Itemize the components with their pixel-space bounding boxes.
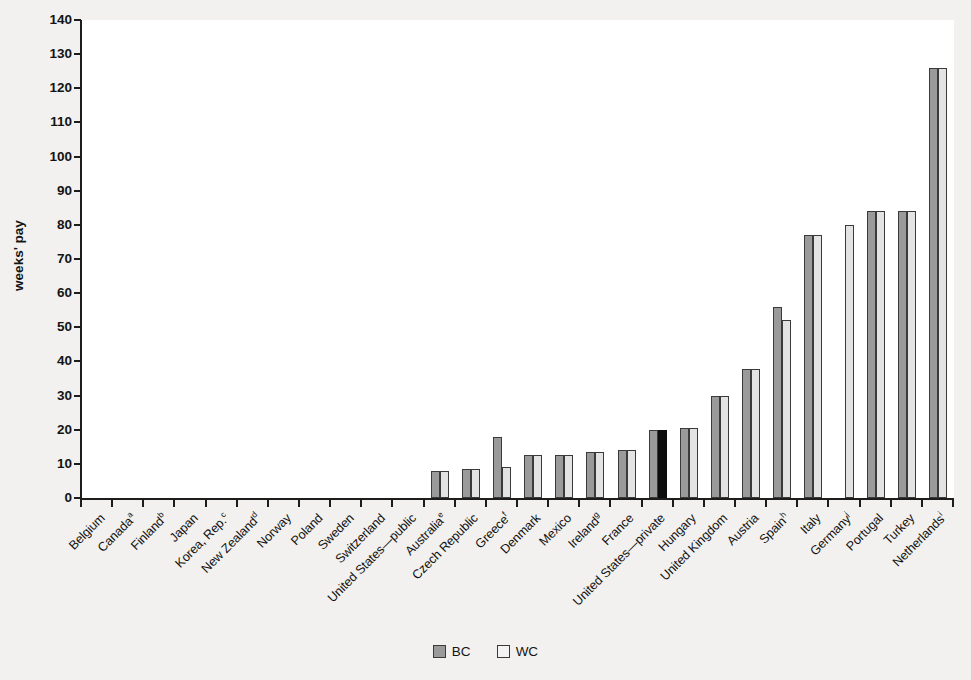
x-axis-tick-mark bbox=[516, 500, 518, 507]
bar-group bbox=[244, 20, 262, 498]
bar-group bbox=[555, 20, 573, 498]
bar-group bbox=[586, 20, 604, 498]
bar-group bbox=[368, 20, 386, 498]
y-axis-tick-label: 0 bbox=[64, 491, 72, 505]
legend-item: WC bbox=[497, 644, 539, 659]
bar-bc bbox=[742, 369, 751, 498]
x-axis-tick-mark bbox=[111, 500, 113, 507]
y-axis-tick-label: 60 bbox=[57, 286, 72, 300]
bar-bc bbox=[773, 307, 782, 498]
y-axis-tick-label: 50 bbox=[57, 320, 72, 334]
y-axis-tick-label: 80 bbox=[57, 218, 72, 232]
bar-group bbox=[929, 20, 947, 498]
bar-wc bbox=[876, 211, 885, 498]
bar-group bbox=[493, 20, 511, 498]
bar-wc bbox=[813, 235, 822, 498]
x-axis-tick-mark bbox=[80, 500, 82, 507]
x-axis-tick-mark bbox=[173, 500, 175, 507]
y-axis-tick-label: 30 bbox=[57, 389, 72, 403]
bar-bc bbox=[898, 211, 907, 498]
y-axis-tick-mark bbox=[74, 395, 81, 397]
bar-group bbox=[649, 20, 667, 498]
figure: 0102030405060708090100110120130140 weeks… bbox=[0, 0, 971, 680]
x-axis-tick-mark bbox=[765, 500, 767, 507]
legend-label: WC bbox=[516, 644, 539, 659]
bar-wc bbox=[533, 455, 542, 498]
y-axis-tick-label: 130 bbox=[49, 47, 72, 61]
y-axis-tick-mark bbox=[74, 19, 81, 21]
x-axis-tick-mark bbox=[578, 500, 580, 507]
bar-group bbox=[804, 20, 822, 498]
x-axis-tick-mark bbox=[454, 500, 456, 507]
bar-group bbox=[119, 20, 137, 498]
y-axis-tick-mark bbox=[74, 53, 81, 55]
y-axis-tick-mark bbox=[74, 190, 81, 192]
bar-group bbox=[213, 20, 231, 498]
bar-bc bbox=[524, 455, 533, 498]
y-axis-tick-label: 20 bbox=[57, 423, 72, 437]
y-axis-tick-mark bbox=[74, 497, 81, 499]
x-axis-tick-mark bbox=[703, 500, 705, 507]
footnote-marker: g bbox=[591, 509, 601, 519]
bar-wc-highlighted bbox=[658, 430, 667, 498]
chart-legend: BCWC bbox=[0, 644, 971, 659]
bar-group bbox=[711, 20, 729, 498]
bar-wc bbox=[440, 471, 449, 498]
y-axis-tick-label: 70 bbox=[57, 252, 72, 266]
x-axis-tick-mark bbox=[796, 500, 798, 507]
y-axis-tick-label: 10 bbox=[57, 457, 72, 471]
bar-wc bbox=[689, 428, 698, 498]
x-axis-tick-mark bbox=[205, 500, 207, 507]
bar-group bbox=[618, 20, 636, 498]
x-axis-tick-mark bbox=[298, 500, 300, 507]
x-axis-tick-mark bbox=[485, 500, 487, 507]
bar-bc bbox=[555, 455, 564, 498]
x-axis-tick-mark bbox=[827, 500, 829, 507]
footnote-marker: c bbox=[218, 509, 228, 519]
bar-wc bbox=[751, 369, 760, 498]
x-axis-tick-mark bbox=[360, 500, 362, 507]
y-axis-tick-mark bbox=[74, 224, 81, 226]
x-axis-tick-mark bbox=[734, 500, 736, 507]
footnote-marker: a bbox=[124, 509, 134, 519]
bar-group bbox=[306, 20, 324, 498]
bar-group bbox=[773, 20, 791, 498]
x-axis-tick-label: Norway bbox=[255, 511, 295, 551]
bar-group bbox=[836, 20, 854, 498]
bar-bc bbox=[586, 452, 595, 498]
x-axis-tick-mark bbox=[641, 500, 643, 507]
bar-wc bbox=[845, 225, 854, 498]
y-axis-tick-mark bbox=[74, 326, 81, 328]
bar-group bbox=[867, 20, 885, 498]
bar-group bbox=[88, 20, 106, 498]
x-axis-tick-mark bbox=[267, 500, 269, 507]
x-axis-tick-mark bbox=[890, 500, 892, 507]
bar-bc bbox=[431, 471, 440, 498]
y-axis-tick-label: 100 bbox=[49, 150, 72, 164]
x-axis-tick-mark bbox=[547, 500, 549, 507]
y-axis-tick-mark bbox=[74, 429, 81, 431]
bar-group bbox=[431, 20, 449, 498]
bar-group bbox=[337, 20, 355, 498]
y-axis-tick-label: 140 bbox=[49, 13, 72, 27]
legend-label: BC bbox=[452, 644, 471, 659]
bar-group bbox=[400, 20, 418, 498]
y-axis-tick-label: 120 bbox=[49, 81, 72, 95]
bar-group bbox=[742, 20, 760, 498]
bar-wc bbox=[720, 396, 729, 498]
bar-bc bbox=[867, 211, 876, 498]
legend-swatch-wc bbox=[497, 645, 510, 658]
bar-bc bbox=[929, 68, 938, 498]
x-axis-tick-mark bbox=[391, 500, 393, 507]
legend-swatch-bc bbox=[433, 645, 446, 658]
y-axis-tick-mark bbox=[74, 258, 81, 260]
bar-group bbox=[275, 20, 293, 498]
x-axis-tick-mark bbox=[672, 500, 674, 507]
bar-wc bbox=[471, 469, 480, 498]
bar-group bbox=[182, 20, 200, 498]
y-axis-tick-label: 40 bbox=[57, 354, 72, 368]
bar-bc bbox=[680, 428, 689, 498]
bar-group bbox=[898, 20, 916, 498]
x-axis-tick-label: Italy bbox=[798, 511, 824, 537]
bar-group bbox=[524, 20, 542, 498]
